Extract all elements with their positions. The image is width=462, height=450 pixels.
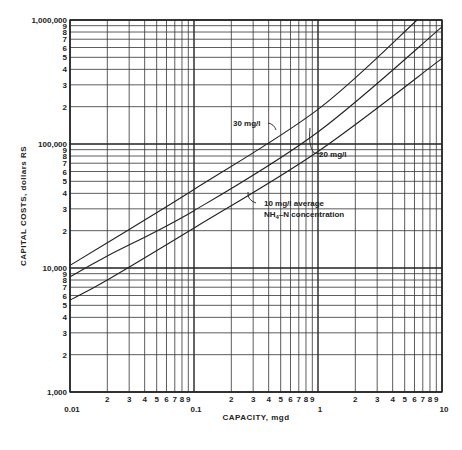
y-tick-label: 3 — [63, 81, 68, 90]
y-tick-label: 10,000 — [43, 264, 68, 273]
x-tick-label: 3 — [251, 395, 256, 404]
y-tick-label: 4 — [63, 65, 68, 74]
x-tick-label: 10 — [440, 405, 449, 414]
x-tick-label: 6 — [412, 395, 417, 404]
x-tick-label: 9 — [310, 395, 315, 404]
x-tick-label: 4 — [142, 395, 147, 404]
y-tick-label: 5 — [63, 177, 68, 186]
annotation-10mgl-text-line1: 10 mg/l average — [264, 199, 325, 208]
curve-series-1 — [70, 27, 442, 277]
x-tick-label: 4 — [390, 395, 395, 404]
x-tick-label: 5 — [154, 395, 159, 404]
x-tick-label: 8 — [180, 395, 185, 404]
curve-series-0 — [70, 20, 417, 265]
x-tick-label: 5 — [278, 395, 283, 404]
y-tick-label: 4 — [63, 313, 68, 322]
y-axis-ticks: 1,0002345678910,00023456789100,000234567… — [31, 16, 67, 397]
x-tick-label: 2 — [105, 395, 110, 404]
x-tick-label: 6 — [288, 395, 293, 404]
x-tick-label: 7 — [297, 395, 302, 404]
x-axis-ticks: 0.01234567890.12345678912345678910 — [64, 395, 449, 414]
x-tick-label: 3 — [127, 395, 132, 404]
x-tick-label: 9 — [186, 395, 191, 404]
y-tick-label: 2 — [63, 227, 68, 236]
annotation-10mgl-text-line2: NH4–N concentration — [264, 210, 344, 220]
y-tick-label: 3 — [63, 205, 68, 214]
cost-curves — [70, 20, 442, 300]
capital-cost-chart: 0.01234567890.12345678912345678910 1,000… — [0, 0, 462, 450]
x-tick-label: 0.01 — [64, 405, 80, 414]
x-tick-label: 2 — [229, 395, 234, 404]
x-tick-label: 1 — [318, 405, 323, 414]
x-tick-label: 8 — [304, 395, 309, 404]
curve-series-2 — [70, 58, 442, 300]
y-tick-label: 3 — [63, 329, 68, 338]
x-tick-label: 6 — [164, 395, 169, 404]
x-tick-label: 8 — [428, 395, 433, 404]
y-tick-label: 6 — [63, 292, 68, 301]
annotation-30mgl: 30 mg/l — [233, 119, 276, 130]
annotation-20mgl-text: 20 mg/l — [319, 150, 347, 159]
y-tick-label: 6 — [63, 168, 68, 177]
y-tick-label: 1,000 — [47, 388, 68, 397]
annotation-30mgl-text: 30 mg/l — [233, 119, 261, 128]
y-tick-label: 1,000,000 — [31, 16, 67, 25]
x-tick-label: 3 — [375, 395, 380, 404]
x-tick-label: 2 — [353, 395, 358, 404]
x-tick-label: 9 — [434, 395, 439, 404]
annotation-10mgl: 10 mg/l average NH4–N concentration — [248, 192, 344, 220]
annotation-30mgl-leader — [268, 123, 276, 130]
y-axis-label: CAPITAL COSTS, dollars RS — [19, 146, 28, 266]
y-tick-label: 6 — [63, 44, 68, 53]
x-tick-label: 4 — [266, 395, 271, 404]
x-tick-label: 7 — [421, 395, 426, 404]
x-tick-label: 0.1 — [190, 405, 202, 414]
y-tick-label: 5 — [63, 53, 68, 62]
y-tick-label: 5 — [63, 301, 68, 310]
x-tick-label: 5 — [402, 395, 407, 404]
y-tick-label: 2 — [63, 103, 68, 112]
y-tick-label: 100,000 — [38, 140, 67, 149]
y-tick-label: 4 — [63, 189, 68, 198]
x-axis-label: CAPACITY, mgd — [222, 413, 289, 422]
x-tick-label: 7 — [173, 395, 178, 404]
y-tick-label: 2 — [63, 351, 68, 360]
